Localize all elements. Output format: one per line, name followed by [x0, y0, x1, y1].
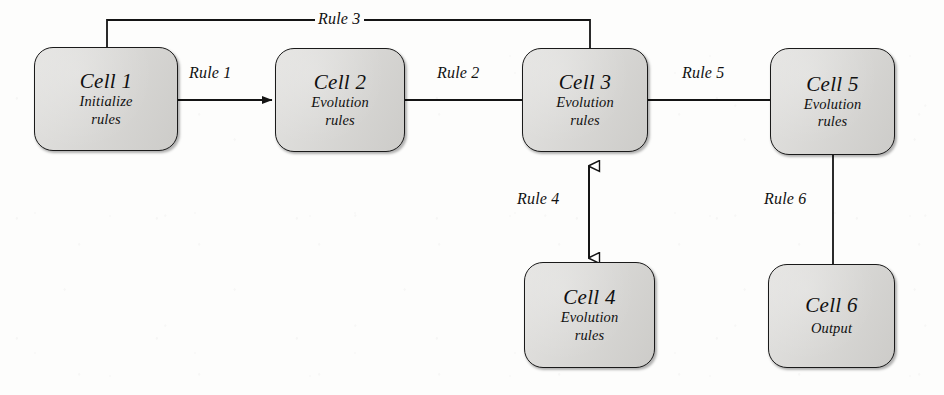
node-cell-5[interactable]: Cell 5 Evolution rules	[770, 48, 895, 155]
node-cell-6-title: Cell 6	[805, 294, 858, 316]
node-cell-4-subtitle-line1: Evolution	[561, 309, 619, 326]
edge-label-rule4: Rule 4	[517, 190, 560, 208]
node-cell-2-title: Cell 2	[314, 71, 367, 93]
node-cell-4-title: Cell 4	[563, 286, 616, 308]
node-cell-1-subtitle-line2: rules	[91, 111, 121, 128]
node-cell-4-subtitle-line2: rules	[575, 327, 605, 344]
diagram-canvas: Rule 3 Rule 1 Rule 2 Rule 5 Rule 4 Rule …	[0, 0, 944, 395]
node-cell-2-subtitle-line2: rules	[325, 112, 355, 129]
node-cell-4[interactable]: Cell 4 Evolution rules	[524, 262, 655, 368]
node-cell-6-subtitle-line1: Output	[811, 320, 852, 337]
node-cell-6[interactable]: Cell 6 Output	[768, 264, 895, 368]
edge-label-rule2: Rule 2	[437, 64, 480, 82]
node-cell-5-title: Cell 5	[806, 73, 859, 95]
node-cell-1-subtitle-line1: Initialize	[79, 93, 132, 110]
node-cell-3-subtitle-line1: Evolution	[556, 94, 614, 111]
node-cell-2[interactable]: Cell 2 Evolution rules	[275, 48, 405, 152]
edge-label-rule3: Rule 3	[315, 10, 364, 28]
node-cell-1[interactable]: Cell 1 Initialize rules	[34, 47, 178, 151]
node-cell-5-subtitle-line2: rules	[818, 113, 848, 130]
node-cell-2-subtitle-line1: Evolution	[311, 94, 369, 111]
node-cell-3-subtitle-line2: rules	[570, 112, 600, 129]
edge-label-rule5: Rule 5	[682, 64, 725, 82]
edge-label-rule6: Rule 6	[764, 190, 807, 208]
node-cell-5-subtitle-line1: Evolution	[804, 96, 862, 113]
node-cell-1-title: Cell 1	[80, 70, 133, 92]
node-cell-3[interactable]: Cell 3 Evolution rules	[522, 48, 648, 152]
edge-label-rule1: Rule 1	[189, 64, 232, 82]
node-cell-3-title: Cell 3	[559, 71, 612, 93]
